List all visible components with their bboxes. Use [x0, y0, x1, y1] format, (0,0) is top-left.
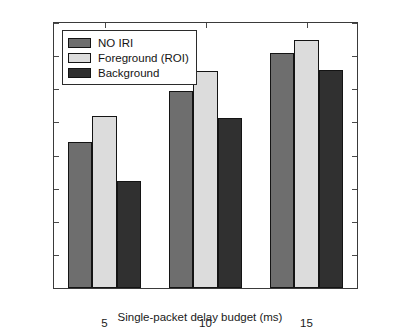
legend-item-label: Foreground (ROI) [98, 52, 189, 64]
y-axis-tick [54, 222, 59, 223]
y-axis-tick [54, 189, 59, 190]
x-axis-title: Single-packet delay budget (ms) [0, 311, 400, 323]
legend-swatch-icon [68, 53, 91, 63]
legend-item-label: Background [98, 67, 159, 79]
y-axis-tick [54, 56, 59, 57]
bar [68, 142, 93, 288]
bar [117, 181, 142, 288]
legend-swatch-icon [68, 38, 91, 48]
bar [92, 116, 117, 288]
y-axis-tick-right [352, 56, 357, 57]
y-axis-tick-right [352, 255, 357, 256]
y-axis-tick [54, 23, 59, 24]
y-axis-tick [54, 255, 59, 256]
y-axis-tick-right [352, 122, 357, 123]
chart-figure: NO IRIForeground (ROI)Background 0510152… [0, 0, 400, 332]
x-axis-tick-top [307, 23, 308, 28]
y-axis-tick-right [352, 156, 357, 157]
legend-item-label: NO IRI [98, 37, 133, 49]
y-axis-tick-right [352, 89, 357, 90]
y-axis-tick-right [352, 23, 357, 24]
legend-swatch-icon [68, 68, 91, 78]
bar [218, 118, 243, 288]
legend-item: Background [68, 65, 189, 80]
bar [169, 91, 194, 288]
y-axis-tick [54, 122, 59, 123]
x-axis-tick-top [105, 23, 106, 28]
bar [270, 53, 295, 288]
chart-legend: NO IRIForeground (ROI)Background [62, 30, 197, 85]
bar [193, 71, 218, 288]
y-axis-tick [54, 156, 59, 157]
legend-item: NO IRI [68, 35, 189, 50]
y-axis-tick [54, 89, 59, 90]
y-axis-tick-right [352, 222, 357, 223]
y-axis-tick-right [352, 189, 357, 190]
legend-item: Foreground (ROI) [68, 50, 189, 65]
plot-frame: NO IRIForeground (ROI)Background 0510152… [53, 22, 358, 289]
bar [294, 40, 319, 288]
bar [319, 70, 344, 288]
x-axis-tick-top [206, 23, 207, 28]
